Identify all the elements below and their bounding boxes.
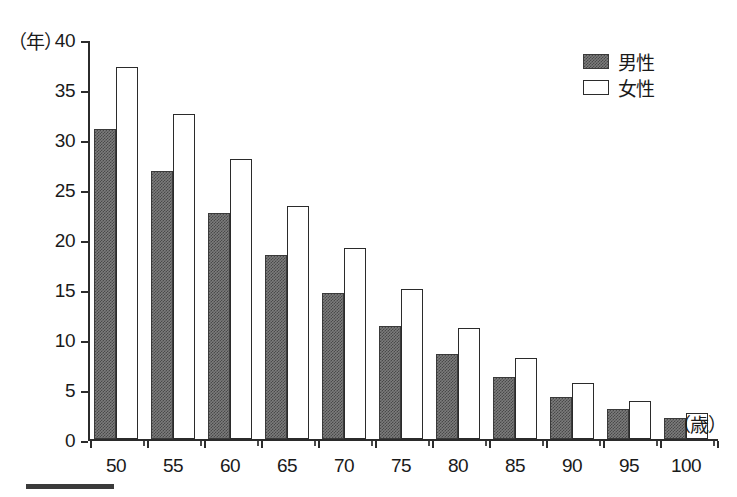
legend-item-male: 男性 (583, 48, 654, 74)
y-axis-tick-label: 10 (55, 330, 75, 352)
y-axis-tick-label: 30 (55, 130, 75, 152)
x-axis-tick-label: 85 (505, 455, 525, 477)
y-axis-tick-label: 0 (65, 430, 75, 452)
x-axis-tick (261, 441, 263, 448)
x-axis-tick-label: 70 (334, 455, 354, 477)
x-axis-minor-tick (656, 441, 658, 446)
x-axis-minor-tick (314, 441, 316, 446)
x-axis-tick-label: 80 (448, 455, 468, 477)
bar-female-70 (344, 248, 366, 439)
x-axis-tick (432, 441, 434, 448)
x-axis-minor-tick (485, 441, 487, 446)
x-axis-line (88, 439, 718, 441)
bar-male-70 (322, 293, 344, 439)
y-axis-tick: 35 (81, 91, 88, 93)
x-axis-tick-label: 95 (619, 455, 639, 477)
bar-male-50 (94, 129, 116, 439)
x-axis-tick-label: 75 (391, 455, 411, 477)
y-axis-tick: 10 (81, 341, 88, 343)
x-axis-minor-tick (371, 441, 373, 446)
caption-rule (26, 484, 114, 489)
x-axis-minor-tick (428, 441, 430, 446)
x-axis-tick-label: 50 (106, 455, 126, 477)
x-axis-minor-tick (257, 441, 259, 446)
y-axis-tick: 5 (81, 391, 88, 393)
female-swatch-icon (583, 80, 609, 95)
x-axis-unit-label: （歳） (672, 410, 726, 437)
y-axis-tick-label: 25 (55, 180, 75, 202)
bar-female-95 (629, 401, 651, 439)
bar-male-90 (550, 397, 572, 439)
x-axis-minor-tick (143, 441, 145, 446)
y-axis-tick-label: 40 (55, 30, 75, 52)
bar-male-75 (379, 326, 401, 439)
x-axis-tick (546, 441, 548, 448)
x-axis-tick (375, 441, 377, 448)
y-axis-tick: 0 (81, 441, 88, 443)
x-axis-minor-tick (542, 441, 544, 446)
legend-label-male: 男性 (618, 48, 654, 75)
bar-male-80 (436, 354, 458, 439)
x-axis-tick (90, 441, 92, 448)
chart-legend: 男性 女性 (583, 48, 654, 100)
bar-female-60 (230, 159, 252, 439)
x-axis-tick (603, 441, 605, 448)
x-axis-minor-tick (599, 441, 601, 446)
bar-female-75 (401, 289, 423, 439)
x-axis-tick-label: 90 (562, 455, 582, 477)
legend-label-female: 女性 (618, 74, 654, 101)
y-axis-line (88, 41, 90, 441)
bar-chart-figure: （年） 403530252015105050556065707580859095… (0, 0, 737, 497)
y-axis-tick-label: 15 (55, 280, 75, 302)
x-axis-tick-end (717, 441, 719, 448)
y-axis-tick: 30 (81, 141, 88, 143)
x-axis-tick-label: 100 (671, 455, 701, 477)
y-axis-tick-label: 20 (55, 230, 75, 252)
y-axis-tick: 40 (81, 41, 88, 43)
x-axis-tick (204, 441, 206, 448)
x-axis-tick-label: 55 (163, 455, 183, 477)
bar-female-90 (572, 383, 594, 439)
bar-female-65 (287, 206, 309, 439)
bar-male-55 (151, 171, 173, 439)
y-axis-tick: 20 (81, 241, 88, 243)
x-axis-tick (318, 441, 320, 448)
bar-male-60 (208, 213, 230, 439)
x-axis-tick (489, 441, 491, 448)
plot-area: 403530252015105050556065707580859095100 (88, 41, 718, 441)
bar-female-80 (458, 328, 480, 439)
y-axis-tick-label: 5 (65, 380, 75, 402)
x-axis-tick (147, 441, 149, 448)
x-axis-tick (660, 441, 662, 448)
bar-male-65 (265, 255, 287, 439)
male-swatch-icon (583, 54, 609, 69)
legend-item-female: 女性 (583, 74, 654, 100)
bar-female-55 (173, 114, 195, 439)
bar-male-85 (493, 377, 515, 439)
bar-female-50 (116, 67, 138, 439)
bar-female-85 (515, 358, 537, 439)
y-axis-tick: 25 (81, 191, 88, 193)
x-axis-minor-tick (200, 441, 202, 446)
y-axis-tick-label: 35 (55, 80, 75, 102)
x-axis-minor-tick (713, 441, 715, 446)
x-axis-tick-label: 60 (220, 455, 240, 477)
x-axis-tick-label: 65 (277, 455, 297, 477)
bar-male-95 (607, 409, 629, 439)
y-axis-tick: 15 (81, 291, 88, 293)
